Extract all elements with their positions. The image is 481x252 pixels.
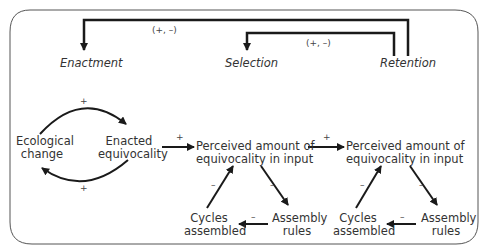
t1-node-cycles: Cycles assembled <box>184 212 234 238</box>
stage-selection: Selection <box>225 57 278 70</box>
loop-sign-top: + <box>80 96 88 106</box>
t2-sign-left: – <box>360 180 365 190</box>
diagram-canvas <box>0 0 481 252</box>
t1-node-perceived: Perceived amount of equivocality in inpu… <box>196 140 308 166</box>
t1-node-rules: Assembly rules <box>272 212 322 238</box>
stage-retention: Retention <box>380 57 436 70</box>
feedback-label-outer: (+, –) <box>152 25 177 35</box>
node-enacted-equivocality: Enacted equivocality <box>98 135 160 161</box>
t1-sign-bottom: – <box>251 212 256 222</box>
t2-sign-right: – <box>419 180 424 190</box>
sign-to-retention: + <box>323 132 331 142</box>
sign-to-selection: + <box>176 132 184 142</box>
t1-sign-right: – <box>270 180 275 190</box>
feedback-label-inner: (+, –) <box>306 38 331 48</box>
node-ecological-change: Ecological change <box>16 135 68 161</box>
stage-enactment: Enactment <box>60 57 123 70</box>
loop-arc-bottom <box>42 160 128 181</box>
t2-node-perceived: Perceived amount of equivocality in inpu… <box>346 140 458 166</box>
t2-node-rules: Assembly rules <box>421 212 471 238</box>
t1-sign-left: – <box>211 180 216 190</box>
loop-arc-top <box>40 108 126 134</box>
t2-sign-bottom: – <box>400 212 405 222</box>
t2-node-cycles: Cycles assembled <box>333 212 383 238</box>
loop-sign-bottom: + <box>80 183 88 193</box>
